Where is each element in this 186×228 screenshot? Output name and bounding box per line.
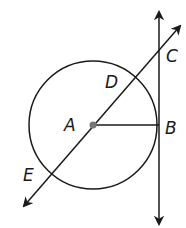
geometry-diagram: A B C D E [0, 0, 186, 228]
center-point-A [90, 122, 97, 129]
label-A: A [63, 115, 76, 135]
label-C: C [166, 46, 178, 66]
label-B: B [165, 118, 177, 138]
label-D: D [105, 72, 118, 92]
label-E: E [23, 165, 34, 185]
